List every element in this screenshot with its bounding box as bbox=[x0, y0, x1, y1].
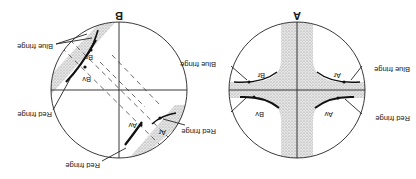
panel-b-title: B bbox=[115, 10, 123, 22]
label-blue-fringe-right: Blue fringe bbox=[374, 65, 410, 74]
label-av: Av bbox=[324, 110, 333, 119]
label-red-fringe: Red fringe bbox=[17, 110, 52, 119]
label-bv: Bv bbox=[255, 110, 264, 119]
panel-a-title: A bbox=[293, 10, 301, 22]
isogyre-cross bbox=[225, 18, 370, 165]
label-ar: Ar bbox=[333, 71, 341, 80]
label-br: Br bbox=[85, 53, 93, 62]
interference-figure-diagram: B Blue fringe Red fringe Red fringe Blue… bbox=[0, 0, 416, 179]
label-ar: Ar bbox=[158, 128, 166, 137]
label-br: Br bbox=[257, 71, 265, 80]
panel-b: B Blue fringe Red fringe Red fringe Blue… bbox=[17, 10, 216, 170]
label-blue-fringe-right: Blue fringe bbox=[180, 60, 216, 69]
label-blue-fringe: Blue fringe bbox=[17, 42, 53, 51]
label-bv: Bv bbox=[82, 75, 91, 84]
panel-a: A Blue fringe Red fringe Br Bv Ar Av bbox=[225, 10, 410, 165]
label-av: Av bbox=[128, 121, 137, 130]
label-red-fringe-right: Red fringe bbox=[375, 114, 410, 123]
dashed-line bbox=[62, 48, 160, 145]
dashed-line bbox=[100, 62, 145, 107]
label-red-fringe-bottom: Red fringe bbox=[65, 161, 100, 170]
label-red-fringe-right: Red fringe bbox=[181, 127, 216, 136]
